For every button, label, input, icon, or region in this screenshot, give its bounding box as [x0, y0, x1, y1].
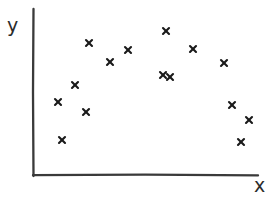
data-point-marker — [238, 139, 244, 145]
data-point-marker — [83, 109, 89, 115]
data-point-marker — [167, 74, 173, 80]
scatter-plot-figure: y x — [0, 0, 275, 198]
data-point-marker — [190, 46, 196, 52]
data-point-marker — [221, 60, 227, 66]
data-point-marker — [229, 102, 235, 108]
data-point-marker — [246, 117, 252, 123]
plot-canvas — [0, 0, 275, 198]
data-point-marker — [86, 40, 92, 46]
data-point-marker — [72, 82, 78, 88]
data-point-marker — [59, 137, 65, 143]
data-point-marker — [125, 47, 131, 53]
data-point-marker — [107, 59, 113, 65]
axis-group — [33, 9, 258, 176]
x-axis-line — [33, 175, 258, 176]
x-axis-label: x — [254, 176, 265, 195]
y-axis-line — [33, 9, 34, 176]
data-point-marker — [160, 72, 166, 78]
data-point-marker — [163, 28, 169, 34]
data-point-marker — [55, 99, 61, 105]
y-axis-label: y — [7, 16, 18, 35]
data-point-group — [55, 28, 252, 145]
